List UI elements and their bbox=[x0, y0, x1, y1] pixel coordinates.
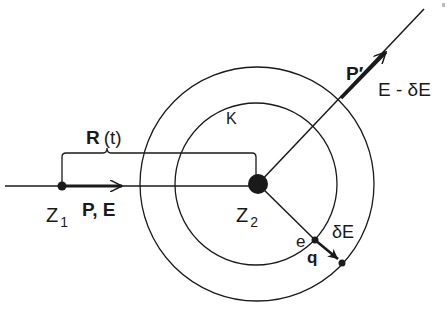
projectile-z1-dot bbox=[58, 182, 67, 191]
ejected-electron-dot bbox=[339, 260, 346, 267]
label-incoming-momentum: P, E bbox=[82, 199, 115, 220]
target-z2-nucleus bbox=[248, 174, 268, 194]
electron-e-dot bbox=[312, 237, 319, 244]
collision-diagram: Z1 P, E Z2 R(t) K P′ E - δE e q δE bbox=[0, 0, 448, 309]
label-distance: R(t) bbox=[86, 127, 122, 148]
label-transfer-energy: δE bbox=[332, 222, 354, 242]
distance-bracket bbox=[62, 148, 256, 186]
label-k-shell: K bbox=[226, 110, 237, 127]
label-transfer-momentum: q bbox=[307, 248, 317, 267]
label-outgoing-momentum: P′ bbox=[346, 63, 364, 84]
label-z2: Z2 bbox=[236, 204, 258, 230]
label-electron: e bbox=[296, 232, 305, 251]
momentum-transfer-arrow bbox=[315, 240, 338, 259]
electron-radius-line bbox=[258, 184, 315, 240]
scan-mark bbox=[442, 3, 445, 7]
label-outgoing-energy: E - δE bbox=[378, 79, 431, 100]
label-z1: Z1 bbox=[46, 204, 68, 230]
